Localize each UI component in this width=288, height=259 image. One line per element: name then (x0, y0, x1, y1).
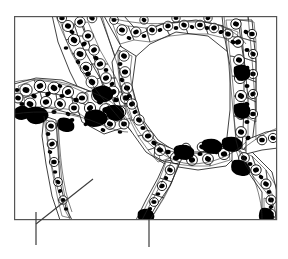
histology-drawing (0, 0, 288, 259)
histology-figure: Histological line drawing of branching c… (0, 0, 288, 259)
